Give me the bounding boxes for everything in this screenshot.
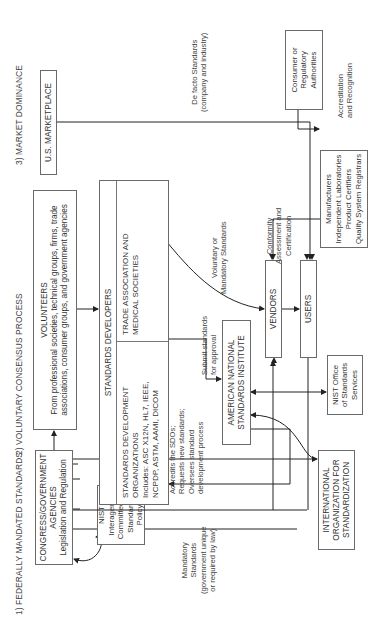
primary-connectors bbox=[0, 0, 383, 629]
standards-process-diagram: 1) FEDERALLY MANDATED STANDARDS 2) VOLUN… bbox=[0, 0, 383, 629]
